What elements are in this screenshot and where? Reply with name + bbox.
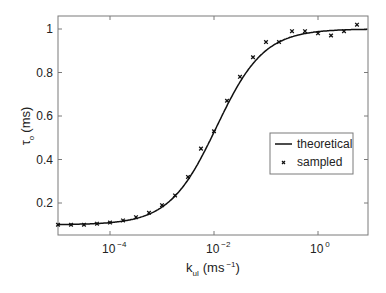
y-tick-label: 0.2 [36, 196, 53, 210]
legend-theoretical-label: theoretical [297, 137, 352, 151]
x-tick-label: 10−4 [102, 240, 127, 256]
x-axis-label: kul(ms−1) [186, 260, 240, 278]
y-tick-label: 0.8 [36, 66, 53, 80]
y-tick-label: 1 [46, 22, 53, 36]
plot-area [58, 16, 368, 235]
legend-sampled-label: sampled [297, 155, 342, 169]
y-tick-label: 0.4 [36, 153, 53, 167]
x-tick-label: 100 [310, 240, 330, 256]
y-tick-label: 0.6 [36, 109, 53, 123]
chart: 0.20.40.60.81 10−410−2100 τo(ms) kul(ms−… [0, 0, 386, 293]
y-axis-label: τo(ms) [18, 107, 36, 146]
x-tick-label: 10−2 [206, 240, 231, 256]
svg-text:τo(ms): τo(ms) [18, 107, 36, 146]
legend: theoretical sampled [270, 133, 353, 174]
svg-text:kul(ms−1): kul(ms−1) [186, 260, 240, 278]
